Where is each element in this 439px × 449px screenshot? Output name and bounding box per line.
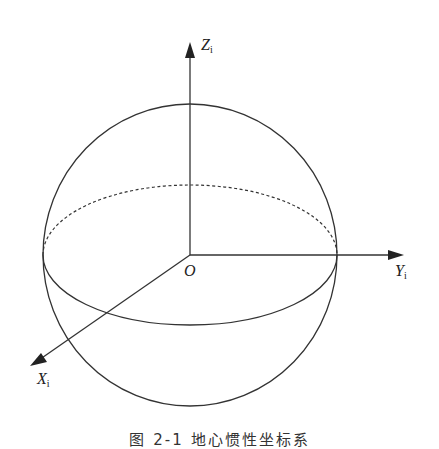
z-axis-label: Zi xyxy=(201,36,213,55)
y-axis-label: Yi xyxy=(395,262,407,281)
origin-label: O xyxy=(184,262,196,280)
figure-caption: 图 2-1 地心惯性坐标系 xyxy=(0,428,439,449)
z-axis-arrow-icon xyxy=(185,42,195,58)
y-axis-arrow-icon xyxy=(388,250,404,260)
x-axis-label: Xi xyxy=(37,370,50,389)
x-axis xyxy=(36,255,190,362)
x-axis-arrow-icon xyxy=(30,353,47,366)
